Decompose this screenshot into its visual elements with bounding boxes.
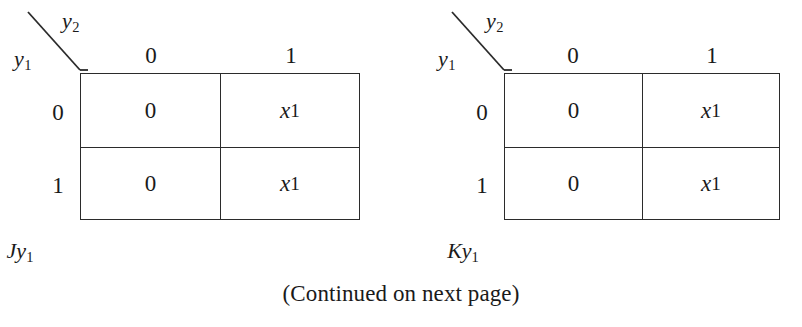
kmap-caption-jy1: Jy1 — [0, 240, 220, 265]
row-header-1: 1 — [46, 174, 70, 197]
kmap-cell: x1 — [220, 74, 359, 147]
karnaugh-map-figure: y2 y1 0 1 0 1 0 x1 0 x1 Jy1 y2 y1 0 1 0 — [0, 0, 802, 327]
kmap-caption-ky1: Ky1 — [274, 240, 652, 265]
column-header-1: 1 — [271, 44, 311, 67]
kmap-cell: 0 — [81, 74, 220, 147]
kmap-cell: x1 — [220, 148, 359, 220]
row-header-0: 0 — [470, 101, 494, 124]
column-variable-label: y2 — [486, 10, 504, 35]
column-header-0: 0 — [131, 44, 171, 67]
kmap-cell: 0 — [505, 148, 642, 220]
kmap-row: 0 x1 — [81, 147, 359, 220]
row-header-1: 1 — [470, 174, 494, 197]
kmap-grid: 0 x1 0 x1 — [504, 73, 780, 220]
kmap-jy1: y2 y1 0 1 0 1 0 x1 0 x1 Jy1 — [0, 0, 400, 260]
row-variable-label: y1 — [14, 48, 32, 73]
kmap-row: 0 x1 — [505, 147, 779, 220]
kmap-row: 0 x1 — [505, 74, 779, 147]
row-header-0: 0 — [46, 101, 70, 124]
kmap-row: 0 x1 — [81, 74, 359, 147]
kmap-grid: 0 x1 0 x1 — [80, 73, 360, 220]
kmap-cell: x1 — [642, 74, 779, 147]
kmap-cell: x1 — [642, 148, 779, 220]
continued-note: (Continued on next page) — [0, 282, 802, 305]
row-variable-label: y1 — [438, 48, 456, 73]
column-header-1: 1 — [692, 44, 732, 67]
column-header-0: 0 — [553, 44, 593, 67]
column-variable-label: y2 — [62, 10, 80, 35]
kmap-ky1: y2 y1 0 1 0 1 0 x1 0 x1 Ky1 — [424, 0, 802, 260]
kmap-cell: 0 — [81, 148, 220, 220]
kmap-cell: 0 — [505, 74, 642, 147]
